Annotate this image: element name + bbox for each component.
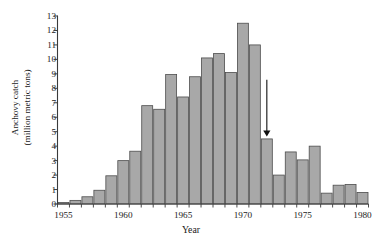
x-tick-label-1970: 1970	[234, 210, 252, 220]
x-axis-tick-labels: 195519601965197019751980	[0, 0, 382, 246]
x-tick-label-1980: 1980	[353, 210, 371, 220]
anchovy-catch-bar-chart: Anchovy catch (million metric tons) 0123…	[0, 0, 382, 246]
x-tick-label-1965: 1965	[174, 210, 192, 220]
x-tick-label-1955: 1955	[54, 210, 72, 220]
x-axis-title: Year	[0, 224, 382, 235]
x-tick-label-1960: 1960	[114, 210, 132, 220]
x-tick-label-1975: 1975	[294, 210, 312, 220]
